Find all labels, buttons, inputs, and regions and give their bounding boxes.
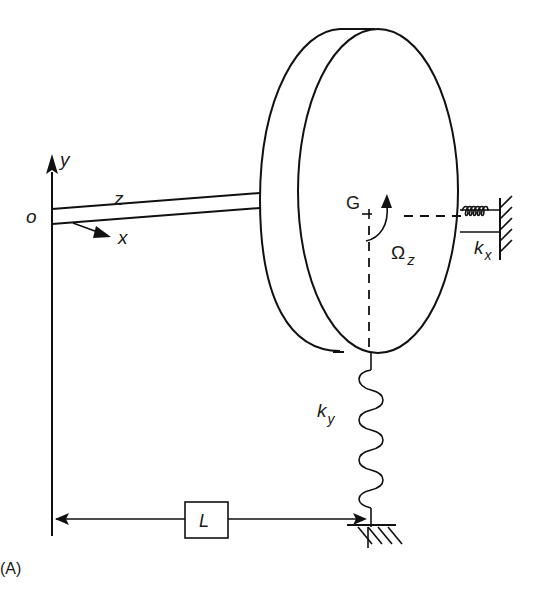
rotation-label: Ωz [391,242,415,268]
rotation-subscript: z [406,251,415,268]
dimension-line [55,502,367,538]
ground-hatch-right-icon [500,196,512,252]
x-axis-arrow [73,223,111,238]
x-axis-label: x [117,227,129,248]
ky-subscript: y [327,411,336,427]
origin-label: o [26,206,37,227]
rotation-arrowhead-icon [381,194,392,208]
center-label-G: G [346,193,360,213]
dimension-label-L: L [199,511,209,531]
y-axis-label: y [58,149,71,170]
shaft [52,193,260,224]
rotation-symbol: Ω [391,242,405,263]
rotor-disc [260,29,458,353]
disc-center [362,209,462,352]
ky-symbol: k [317,400,328,421]
kx-symbol: k [474,237,485,258]
kx-subscript: x [484,247,493,263]
y-axis [46,154,58,536]
y-axis-arrowhead-icon [46,154,58,174]
x-arrowhead-icon [93,226,111,238]
ground-hatch-bottom-icon [358,527,402,544]
panel-label: (A) [0,560,21,577]
rotor-diagram: y o z x G Ωz kx ky L (A) [0,0,541,602]
spring-kx-label: kx [474,237,493,263]
spring-ky-label: ky [317,400,336,427]
z-axis-label: z [113,188,124,209]
